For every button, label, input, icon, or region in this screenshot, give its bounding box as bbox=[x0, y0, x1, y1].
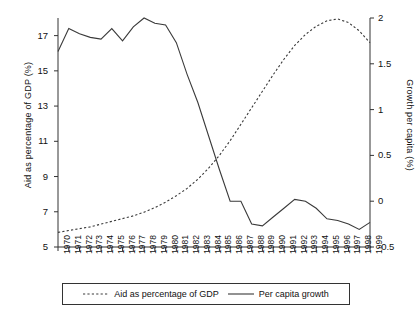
x-tick-label: 1996 bbox=[342, 235, 352, 254]
y-tick-label-left: 7 bbox=[18, 206, 48, 217]
x-tick-label: 1994 bbox=[320, 235, 330, 254]
axis-group bbox=[58, 18, 370, 247]
y-tick-label-left: 17 bbox=[18, 30, 48, 41]
legend-swatch-solid-icon bbox=[228, 290, 254, 298]
y-axis-right-title: Growth per capita (%) bbox=[405, 45, 415, 205]
x-tick-label: 1985 bbox=[223, 235, 233, 254]
legend-swatch-dashed-icon bbox=[83, 290, 109, 298]
x-tick-label: 1986 bbox=[234, 235, 244, 254]
x-tick-label: 1991 bbox=[288, 235, 298, 254]
x-tick-label: 1976 bbox=[127, 235, 137, 254]
x-tick-label: 1990 bbox=[277, 235, 287, 254]
y-tick-label-right: 2 bbox=[378, 12, 408, 23]
x-tick-label: 1989 bbox=[266, 235, 276, 254]
x-tick-label: 1975 bbox=[116, 235, 126, 254]
x-tick-label: 1971 bbox=[73, 235, 83, 254]
legend-label-growth: Per capita growth bbox=[259, 289, 329, 299]
series-line-aid-as-percentage-of-gdp bbox=[58, 19, 370, 232]
x-tick-label: 1970 bbox=[62, 235, 72, 254]
y-axis-left-ticks bbox=[54, 36, 58, 247]
y-tick-label-left: 5 bbox=[18, 241, 48, 252]
x-tick-label: 1977 bbox=[137, 235, 147, 254]
y-tick-label-left: 9 bbox=[18, 171, 48, 182]
legend-item-growth: Per capita growth bbox=[228, 289, 329, 299]
x-tick-label: 1982 bbox=[191, 235, 201, 254]
x-tick-label: 1983 bbox=[202, 235, 212, 254]
x-tick-label: 1993 bbox=[309, 235, 319, 254]
chart-figure: Aid as percentage of GDP (%) Growth per … bbox=[0, 0, 419, 313]
y-tick-label-right: 1 bbox=[378, 104, 408, 115]
y-tick-label-left: 11 bbox=[18, 135, 48, 146]
x-tick-label: 1997 bbox=[352, 235, 362, 254]
x-tick-label: 1984 bbox=[213, 235, 223, 254]
y-tick-label-right: 0 bbox=[378, 195, 408, 206]
y-tick-label-right: 0.5 bbox=[378, 149, 408, 160]
x-tick-label: 1999 bbox=[374, 235, 384, 254]
y-axis-right-ticks bbox=[370, 18, 374, 247]
y-tick-label-left: 13 bbox=[18, 100, 48, 111]
chart-legend: Aid as percentage of GDP Per capita grow… bbox=[62, 283, 350, 305]
x-tick-label: 1974 bbox=[105, 235, 115, 254]
x-tick-label: 1987 bbox=[245, 235, 255, 254]
x-tick-label: 1979 bbox=[159, 235, 169, 254]
x-tick-label: 1988 bbox=[256, 235, 266, 254]
y-tick-label-left: 15 bbox=[18, 65, 48, 76]
x-tick-label: 1973 bbox=[94, 235, 104, 254]
y-tick-label-right: 1.5 bbox=[378, 58, 408, 69]
series-line-per-capita-growth bbox=[58, 18, 370, 229]
chart-canvas bbox=[0, 0, 419, 313]
x-tick-label: 1978 bbox=[148, 235, 158, 254]
x-tick-label: 1995 bbox=[331, 235, 341, 254]
x-tick-label: 1992 bbox=[299, 235, 309, 254]
x-tick-label: 1980 bbox=[170, 235, 180, 254]
legend-label-aid: Aid as percentage of GDP bbox=[114, 289, 219, 299]
x-tick-label: 1998 bbox=[363, 235, 373, 254]
x-tick-label: 1981 bbox=[180, 235, 190, 254]
x-tick-label: 1972 bbox=[84, 235, 94, 254]
legend-item-aid: Aid as percentage of GDP bbox=[83, 289, 219, 299]
